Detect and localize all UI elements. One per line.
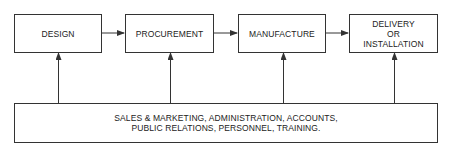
- stage-label: MANUFACTURE: [249, 29, 315, 39]
- stage-label-line-3: INSTALLATION: [363, 39, 423, 49]
- support-functions-box: SALES & MARKETING, ADMINISTRATION, ACCOU…: [14, 103, 438, 143]
- stage-label: DESIGN: [41, 29, 74, 39]
- stage-label-line-1: DELIVERY: [363, 19, 423, 29]
- stage-label: PROCUREMENT: [136, 29, 204, 39]
- stage-manufacture: MANUFACTURE: [238, 14, 326, 53]
- stage-design: DESIGN: [14, 14, 102, 53]
- stage-delivery: DELIVERY OR INSTALLATION: [349, 14, 438, 53]
- support-label-line-1: SALES & MARKETING, ADMINISTRATION, ACCOU…: [114, 113, 337, 123]
- support-label-line-2: PUBLIC RELATIONS, PERSONNEL, TRAINING.: [114, 123, 337, 133]
- stage-label-line-2: OR: [363, 29, 423, 39]
- stage-procurement: PROCUREMENT: [125, 14, 214, 53]
